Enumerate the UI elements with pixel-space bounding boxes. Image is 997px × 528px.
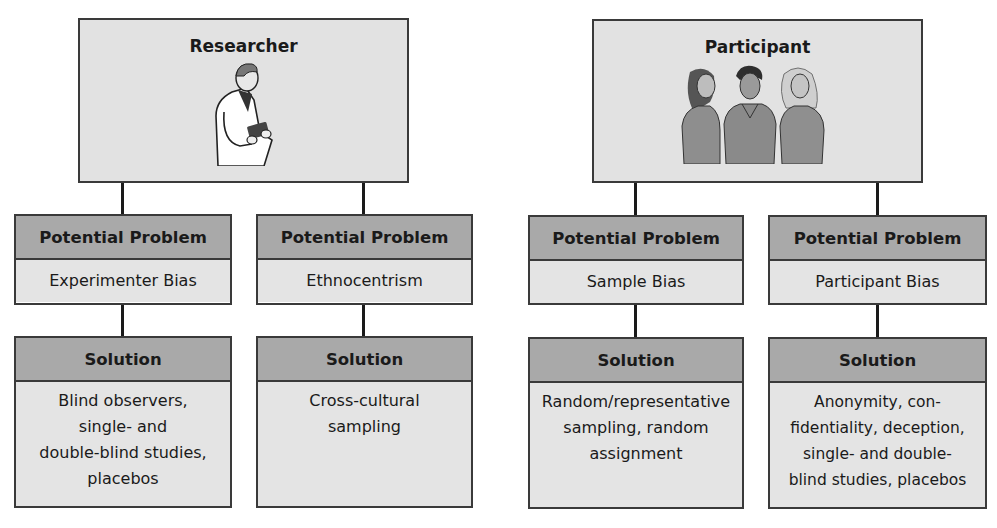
connector-participant-bias <box>876 304 879 337</box>
problem-header: Potential Problem <box>770 217 985 261</box>
participant-title: Participant <box>594 37 921 57</box>
solution-text: Blind observers, single- and double-blin… <box>16 382 230 506</box>
solution-line: Cross-cultural <box>258 388 471 414</box>
solution-header: Solution <box>530 339 742 383</box>
solution-line: blind studies, placebos <box>770 467 985 493</box>
problem-box-sample-bias: Potential Problem Sample Bias <box>528 215 744 305</box>
solution-text: Cross-cultural sampling <box>258 382 471 506</box>
problem-header: Potential Problem <box>258 216 471 260</box>
solution-box-experimenter-bias: Solution Blind observers, single- and do… <box>14 336 232 508</box>
solution-box-ethnocentrism: Solution Cross-cultural sampling <box>256 336 473 508</box>
connector-participant-left-top <box>634 182 637 215</box>
solution-line: sampling, random <box>530 415 742 441</box>
solution-line: fidentiality, deception, <box>770 415 985 441</box>
researcher-title: Researcher <box>80 36 407 56</box>
solution-header: Solution <box>16 338 230 382</box>
solution-line: sampling <box>258 414 471 440</box>
solution-line: Anonymity, con- <box>770 389 985 415</box>
researcher-box: Researcher <box>78 18 409 183</box>
problem-box-ethnocentrism: Potential Problem Ethnocentrism <box>256 214 473 305</box>
solution-line: Blind observers, <box>16 388 230 414</box>
problem-text: Participant Bias <box>770 261 985 303</box>
solution-box-sample-bias: Solution Random/representative sampling,… <box>528 337 744 509</box>
connector-researcher-right-top <box>362 182 365 215</box>
problem-text: Ethnocentrism <box>258 260 471 302</box>
problem-box-participant-bias: Potential Problem Participant Bias <box>768 215 987 305</box>
solution-line: assignment <box>530 441 742 467</box>
solution-box-participant-bias: Solution Anonymity, con- fidentiality, d… <box>768 337 987 509</box>
solution-line: double-blind studies, <box>16 440 230 466</box>
problem-text: Sample Bias <box>530 261 742 303</box>
connector-sample-bias <box>634 304 637 337</box>
solution-header: Solution <box>258 338 471 382</box>
solution-line: single- and double- <box>770 441 985 467</box>
problem-header: Potential Problem <box>530 217 742 261</box>
problem-box-experimenter-bias: Potential Problem Experimenter Bias <box>14 214 232 305</box>
connector-participant-right-top <box>876 182 879 215</box>
solution-line: placebos <box>16 466 230 492</box>
solution-header: Solution <box>770 339 985 383</box>
connector-ethnocentrism <box>362 304 365 337</box>
problem-text: Experimenter Bias <box>16 260 230 302</box>
researcher-with-notebook-icon <box>202 60 292 166</box>
solution-line: Random/representative <box>530 389 742 415</box>
three-participants-icon <box>674 64 844 164</box>
solution-text: Random/representative sampling, random a… <box>530 383 742 507</box>
problem-header: Potential Problem <box>16 216 230 260</box>
connector-experimenter-bias <box>121 304 124 337</box>
connector-researcher-left-top <box>121 182 124 215</box>
solution-text: Anonymity, con- fidentiality, deception,… <box>770 383 985 507</box>
solution-line: single- and <box>16 414 230 440</box>
participant-box: Participant <box>592 19 923 183</box>
